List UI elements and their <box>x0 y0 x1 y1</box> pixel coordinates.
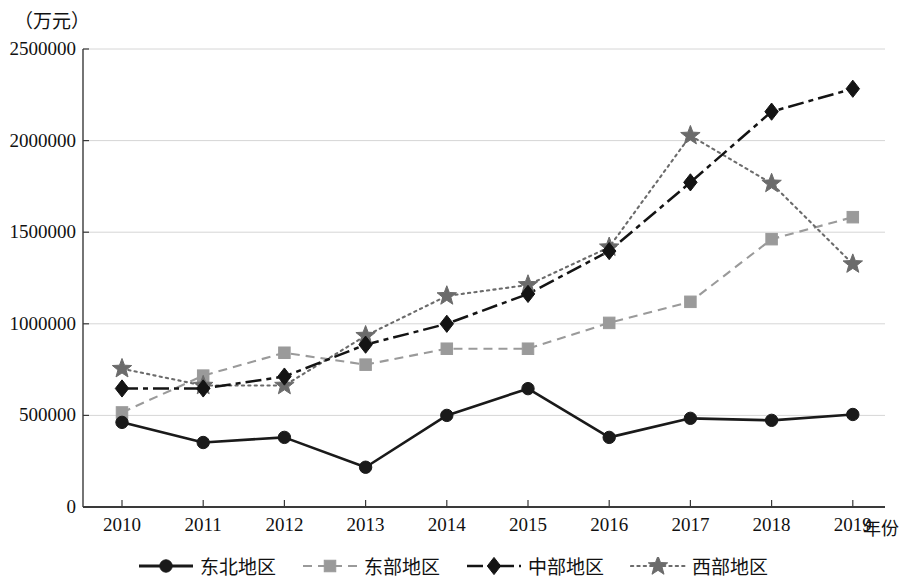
data-point-marker <box>279 347 291 359</box>
data-point-marker <box>441 343 453 355</box>
chart-legend: 东北地区东部地区中部地区西部地区 <box>0 552 905 579</box>
data-point-marker <box>360 359 372 371</box>
legend-swatch-circle <box>138 557 194 575</box>
x-axis-tick-label: 2011 <box>185 514 222 536</box>
legend-label: 西部地区 <box>692 552 768 579</box>
x-axis-tick-label: 2018 <box>753 514 791 536</box>
series-markers <box>116 382 859 473</box>
data-point-marker <box>522 343 534 355</box>
data-point-marker <box>278 431 290 443</box>
data-point-marker <box>112 358 131 376</box>
data-point-marker <box>846 80 859 97</box>
data-point-marker <box>603 431 615 443</box>
data-point-marker <box>685 296 697 308</box>
data-point-marker <box>441 409 453 421</box>
data-point-marker <box>437 286 456 304</box>
plot-area <box>0 0 905 583</box>
y-axis-tick-label: 1000000 <box>0 313 76 335</box>
x-axis-tick-label: 2014 <box>428 514 466 536</box>
x-axis-tick-label: 2012 <box>265 514 303 536</box>
data-point-marker <box>648 557 667 574</box>
series-markers <box>112 125 862 393</box>
data-point-marker <box>440 315 453 332</box>
legend-swatch-square <box>302 557 358 575</box>
data-point-marker <box>159 559 171 571</box>
x-axis-tick-label: 2016 <box>590 514 628 536</box>
x-axis-name-label: 年份 <box>863 514 899 540</box>
series-square <box>122 217 853 412</box>
legend-label: 东部地区 <box>364 552 440 579</box>
series-diamond <box>122 89 853 389</box>
legend-item-east[interactable]: 东部地区 <box>302 552 440 579</box>
x-axis-tick-label: 2017 <box>671 514 709 536</box>
series-line <box>122 89 853 389</box>
data-point-marker <box>359 461 371 473</box>
x-axis-tick-label: 2013 <box>347 514 385 536</box>
legend-swatch-star <box>630 557 686 575</box>
y-axis-unit-label: （万元） <box>14 6 90 33</box>
data-point-marker <box>765 103 778 120</box>
y-axis-tick-label: 1500000 <box>0 221 76 243</box>
y-axis-tick-label: 2000000 <box>0 130 76 152</box>
data-point-marker <box>116 416 128 428</box>
series-markers <box>116 211 858 418</box>
data-point-marker <box>684 412 696 424</box>
data-point-marker <box>766 233 778 245</box>
x-axis-tick-label: 2015 <box>509 514 547 536</box>
data-point-marker <box>522 382 534 394</box>
series-line <box>122 389 853 468</box>
x-axis-tick-label: 2010 <box>103 514 141 536</box>
grid-lines <box>83 49 885 415</box>
data-point-marker <box>684 174 697 191</box>
data-point-marker <box>847 211 859 223</box>
y-axis-tick-label: 0 <box>0 496 76 518</box>
data-point-marker <box>681 125 700 143</box>
data-point-marker <box>603 317 615 329</box>
legend-item-northeast[interactable]: 东北地区 <box>138 552 276 579</box>
legend-label: 中部地区 <box>528 552 604 579</box>
series-line <box>122 217 853 412</box>
data-point-marker <box>765 414 777 426</box>
legend-item-central[interactable]: 中部地区 <box>466 552 604 579</box>
legend-swatch-diamond <box>466 557 522 575</box>
legend-label: 东北地区 <box>200 552 276 579</box>
y-axis-tick-label: 500000 <box>0 404 76 426</box>
series-circle <box>122 389 853 468</box>
y-axis-tick-label: 2500000 <box>0 38 76 60</box>
data-point-marker <box>487 557 500 574</box>
legend-item-west[interactable]: 西部地区 <box>630 552 768 579</box>
data-point-marker <box>324 560 336 572</box>
data-point-marker <box>847 408 859 420</box>
data-point-marker <box>197 436 209 448</box>
chart-container: （万元） 05000001000000150000020000002500000… <box>0 0 905 583</box>
data-point-marker <box>115 380 128 397</box>
